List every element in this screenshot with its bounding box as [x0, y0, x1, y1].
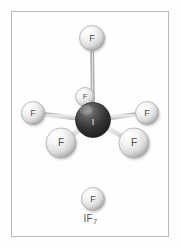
fluorine-equatorial-right-sphere — [136, 102, 159, 125]
fluorine-axial-bottom-sphere — [82, 188, 105, 211]
molecule-model: F F F F I F F F — [0, 0, 181, 248]
fluorine-equatorial-front-left-sphere — [46, 128, 76, 158]
iodine-specular-highlight — [80, 105, 93, 115]
fluorine-equatorial-left-sphere — [22, 102, 45, 125]
molecule-diagram — [0, 0, 181, 248]
formula-element: IF — [84, 213, 94, 224]
formula-caption: IF7 — [0, 213, 181, 225]
formula-subscript: 7 — [93, 218, 97, 225]
fluorine-equatorial-front-right-sphere — [119, 128, 149, 158]
fluorine-axial-top-sphere — [80, 26, 105, 51]
atom-layer-center — [76, 103, 111, 138]
chemistry-figure: F F F F I F F F IF7 — [0, 0, 181, 248]
